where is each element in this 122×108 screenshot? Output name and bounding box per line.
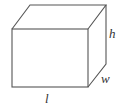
top-face (12, 5, 106, 29)
box-edges (12, 5, 106, 87)
box-diagram: h w l (0, 0, 122, 108)
front-face (12, 29, 88, 87)
height-label: h (109, 26, 116, 41)
length-label: l (45, 91, 49, 106)
width-label: w (101, 71, 110, 86)
